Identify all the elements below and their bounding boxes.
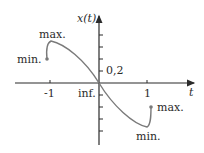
left-min-annotation: min.	[17, 54, 42, 65]
right-max-point	[149, 105, 153, 109]
left-max-annotation: max.	[39, 29, 66, 40]
graph-svg	[0, 0, 204, 153]
tick-label-neg1: -1	[44, 88, 55, 99]
y-axis-label: x(t)	[77, 13, 96, 24]
left-min-point	[45, 57, 49, 61]
graph-figure: x(t) t 0,2 -1 1 min. max. inf. max. min.	[0, 0, 204, 153]
right-max-annotation: max.	[157, 102, 184, 113]
tick-label-y: 0,2	[106, 65, 124, 76]
tick-label-pos1: 1	[144, 88, 151, 99]
x-axis-label: t	[189, 87, 193, 98]
right-min-annotation: min.	[136, 131, 161, 142]
inflection-annotation: inf.	[78, 88, 96, 99]
